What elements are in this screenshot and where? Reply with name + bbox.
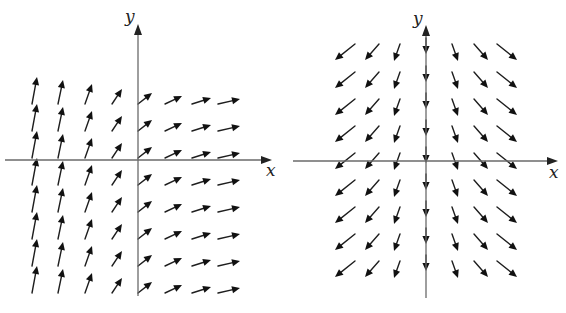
field-vector <box>452 180 459 197</box>
arrowhead-icon <box>115 197 122 206</box>
field-vector <box>497 207 517 223</box>
arrowhead-icon <box>452 161 459 170</box>
field-vector <box>85 138 93 158</box>
vector-shaft <box>497 44 513 57</box>
field-vector <box>85 84 93 104</box>
field-vector <box>138 147 152 158</box>
vector-shaft <box>497 180 513 193</box>
arrowhead-icon <box>86 111 93 120</box>
vector-shaft <box>32 244 36 266</box>
vector-shaft <box>339 99 355 112</box>
field-vector <box>58 107 65 131</box>
arrowhead-icon <box>58 80 65 89</box>
field-vector <box>58 269 65 293</box>
field-vector <box>165 231 182 239</box>
field-vector <box>474 126 488 142</box>
field-vector <box>452 261 459 278</box>
arrowhead-icon <box>86 273 93 282</box>
field-vector <box>365 99 379 115</box>
vector-shaft <box>497 234 513 247</box>
field-vector <box>452 207 459 224</box>
arrowhead-icon <box>58 269 65 278</box>
arrowhead-icon <box>58 188 65 197</box>
arrowhead-icon <box>32 131 39 140</box>
field-vector <box>192 151 211 158</box>
vector-shaft <box>497 261 513 274</box>
left-vector-field: xy <box>5 6 276 296</box>
arrowhead-icon <box>32 185 39 194</box>
arrowhead-icon <box>393 52 400 61</box>
arrowhead-icon <box>231 97 240 104</box>
arrowhead-icon <box>58 107 65 116</box>
arrowhead-icon <box>58 242 65 251</box>
field-vector <box>165 177 182 185</box>
field-vector <box>393 126 400 143</box>
field-vector <box>393 180 400 197</box>
arrowhead-icon <box>202 286 211 293</box>
arrowhead-icon <box>86 84 93 93</box>
field-vector <box>112 143 122 158</box>
field-vector <box>335 234 355 250</box>
arrowhead-icon <box>393 80 400 89</box>
arrowhead-icon <box>32 158 39 167</box>
field-vector <box>58 215 65 239</box>
field-vector <box>474 44 488 60</box>
vector-shaft <box>497 99 513 112</box>
vector-shaft <box>32 163 36 185</box>
field-vector <box>165 150 182 158</box>
field-vector <box>393 261 400 278</box>
arrowhead-icon <box>202 259 211 266</box>
field-vector <box>112 278 122 293</box>
field-vector <box>138 201 152 212</box>
field-vector <box>218 151 240 158</box>
vector-shaft <box>339 207 355 220</box>
field-vector <box>393 99 400 116</box>
arrowhead-icon <box>143 201 152 209</box>
arrowhead-icon <box>452 215 459 224</box>
arrowhead-icon <box>231 232 240 239</box>
vector-field-figures: xy xy <box>0 0 566 313</box>
arrowhead-icon <box>115 224 122 233</box>
arrowhead-icon <box>32 239 39 248</box>
arrowhead-icon <box>115 116 122 125</box>
field-vector <box>452 126 459 143</box>
x-axis-label: x <box>266 160 276 180</box>
field-vector <box>138 174 152 185</box>
field-vector <box>497 180 517 196</box>
field-vector <box>138 228 152 239</box>
arrowhead-icon <box>143 93 152 101</box>
arrowhead-icon <box>202 232 211 239</box>
field-vector <box>335 44 355 60</box>
arrowhead-icon <box>86 138 93 147</box>
vector-shaft <box>497 207 513 220</box>
field-vector <box>138 93 152 104</box>
field-vector <box>32 212 39 239</box>
field-vector <box>85 192 93 212</box>
field-vector <box>32 185 39 212</box>
right-axes: xy <box>293 8 559 298</box>
field-vector <box>365 72 379 88</box>
vector-shaft <box>32 217 36 239</box>
field-vector <box>85 273 93 293</box>
field-vector <box>474 72 488 88</box>
field-vector <box>192 286 211 293</box>
left-axes: xy <box>5 6 276 296</box>
field-vector <box>452 44 459 61</box>
field-vector <box>335 99 355 115</box>
field-vector <box>335 261 355 277</box>
arrowhead-icon <box>202 97 211 104</box>
arrowhead-icon <box>452 107 459 116</box>
field-vector <box>335 72 355 88</box>
field-vector <box>497 261 517 277</box>
field-vector <box>218 124 240 131</box>
arrowhead-icon <box>143 255 152 263</box>
field-vector <box>218 286 240 293</box>
field-vector <box>112 89 122 104</box>
arrowhead-icon <box>202 205 211 212</box>
field-vector <box>452 99 459 116</box>
field-vector <box>497 99 517 115</box>
arrowhead-icon <box>32 104 39 113</box>
y-axis-arrowhead-icon <box>134 24 142 35</box>
arrowhead-icon <box>393 161 400 170</box>
arrowhead-icon <box>452 242 459 251</box>
